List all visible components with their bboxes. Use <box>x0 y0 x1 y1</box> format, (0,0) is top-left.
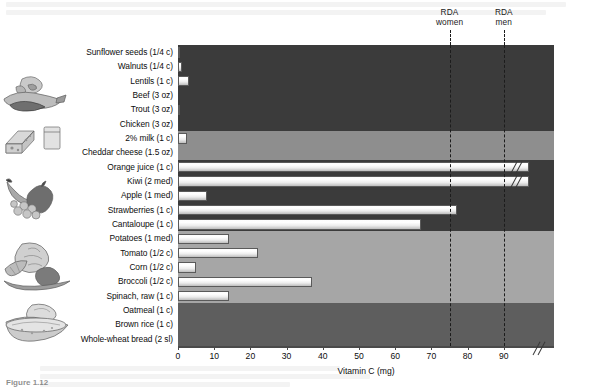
x-tick-label: 90 <box>489 351 519 361</box>
bar-row <box>178 102 554 117</box>
category-label: Walnuts (1/4 c) <box>0 59 176 74</box>
bar-row <box>178 188 554 203</box>
bar <box>178 219 421 229</box>
bar <box>178 277 312 287</box>
bar-row <box>178 217 554 232</box>
x-axis-title: Vitamin C (mg) <box>178 366 554 376</box>
bar-row <box>178 289 554 304</box>
bar <box>178 133 187 143</box>
category-label: Cheddar cheese (1.5 oz) <box>0 145 176 160</box>
x-tick <box>504 346 505 350</box>
category-label: Kiwi (2 med) <box>0 174 176 189</box>
category-label: Orange juice (1 c) <box>0 160 176 175</box>
category-label: 2% milk (1 c) <box>0 131 176 146</box>
category-label: Potatoes (1 med) <box>0 231 176 246</box>
category-label: Beef (3 oz) <box>0 88 176 103</box>
rda-line-head-men <box>504 30 505 45</box>
x-tick-label: 50 <box>344 351 374 361</box>
rda-line-men <box>504 45 505 346</box>
axis-break-icon <box>534 341 550 355</box>
category-label: Corn (1/2 c) <box>0 260 176 275</box>
x-tick-label: 20 <box>235 351 265 361</box>
bar <box>178 76 189 86</box>
category-label: Trout (3 oz) <box>0 102 176 117</box>
bar-row <box>178 131 554 146</box>
rda-line-women <box>450 45 451 346</box>
bar-row <box>178 246 554 261</box>
bar-row <box>178 160 554 175</box>
bar <box>178 191 207 201</box>
bar <box>178 162 529 172</box>
x-tick <box>395 346 396 350</box>
bar <box>178 248 258 258</box>
x-tick-label: 0 <box>163 351 193 361</box>
x-tick <box>359 346 360 350</box>
rda-women-annotation: RDA women <box>428 8 472 27</box>
category-label: Strawberries (1 c) <box>0 203 176 218</box>
x-tick <box>287 346 288 350</box>
bar-row <box>178 45 554 60</box>
bar-row <box>178 88 554 103</box>
bar-row <box>178 145 554 160</box>
x-tick-label: 80 <box>453 351 483 361</box>
category-label: Cantaloupe (1 c) <box>0 217 176 232</box>
category-label: Broccoli (1/2 c) <box>0 274 176 289</box>
plot-area <box>178 45 554 346</box>
bar <box>178 291 229 301</box>
category-label: Sunflower seeds (1/4 c) <box>0 45 176 60</box>
vitamin-c-bar-chart: RDA women RDA men <box>0 0 590 392</box>
bar-row <box>178 174 554 189</box>
bar-row <box>178 274 554 289</box>
x-tick <box>178 346 179 350</box>
x-tick-label: 70 <box>416 351 446 361</box>
bar-row <box>178 117 554 132</box>
category-label: Brown rice (1 c) <box>0 317 176 332</box>
x-tick <box>323 346 324 350</box>
rda-men-line2: men <box>482 18 526 28</box>
category-label: Oatmeal (1 c) <box>0 303 176 318</box>
category-label: Lentils (1 c) <box>0 74 176 89</box>
x-tick <box>214 346 215 350</box>
figure-caption: Figure 1.12 <box>6 378 48 387</box>
bar <box>178 62 182 72</box>
x-tick-label: 60 <box>380 351 410 361</box>
x-tick <box>250 346 251 350</box>
bar-row <box>178 303 554 318</box>
bar <box>178 176 529 186</box>
x-axis-line <box>178 346 554 348</box>
x-tick-label: 10 <box>199 351 229 361</box>
rda-women-line2: women <box>428 18 472 28</box>
bar <box>178 234 229 244</box>
bar-row <box>178 332 554 347</box>
rda-line-head-women <box>450 30 451 45</box>
category-label: Tomato (1/2 c) <box>0 246 176 261</box>
x-tick-label: 40 <box>308 351 338 361</box>
bar-row <box>178 260 554 275</box>
bar <box>178 262 196 272</box>
bar <box>178 105 180 115</box>
bar-row <box>178 59 554 74</box>
category-label: Chicken (3 oz) <box>0 117 176 132</box>
bar <box>178 205 457 215</box>
bar-row <box>178 317 554 332</box>
x-tick <box>431 346 432 350</box>
category-label: Apple (1 med) <box>0 188 176 203</box>
bar-row <box>178 231 554 246</box>
category-label: Whole-wheat bread (2 sl) <box>0 332 176 347</box>
x-tick-label: 30 <box>272 351 302 361</box>
category-label: Spinach, raw (1 c) <box>0 289 176 304</box>
bar-row <box>178 74 554 89</box>
x-tick <box>468 346 469 350</box>
rda-men-annotation: RDA men <box>482 8 526 27</box>
bar-row <box>178 203 554 218</box>
bar <box>178 47 180 57</box>
